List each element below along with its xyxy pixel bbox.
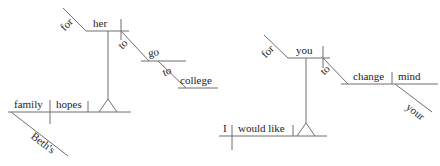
word-would-like: would like [238, 123, 285, 134]
word-her: her [93, 18, 107, 29]
word-change: change [353, 71, 384, 82]
sentence-diagram-figure: for her to go to college family hopes Be… [0, 0, 440, 166]
word-family: family [14, 99, 43, 110]
right-triangle-right-leg [306, 123, 315, 136]
word-mind: mind [398, 71, 421, 82]
word-go: go [147, 46, 160, 59]
left-triangle-left-leg [99, 99, 108, 112]
right-triangle-left-leg [297, 123, 306, 136]
word-i: I [223, 123, 227, 134]
word-you: you [296, 45, 313, 56]
word-college: college [180, 75, 212, 86]
word-hopes: hopes [56, 99, 82, 110]
left-triangle-right-leg [108, 99, 117, 112]
